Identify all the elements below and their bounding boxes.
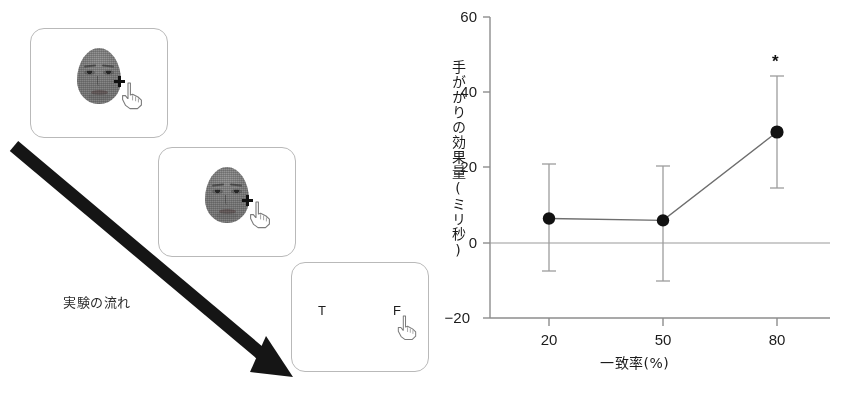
flow-label: 実験の流れ <box>63 292 193 311</box>
experiment-flow-panel: T F 実験の流れ <box>0 0 430 399</box>
stimulus-card-2 <box>158 147 296 257</box>
results-chart-panel: 60 40 20 0 −20 20 50 80 * <box>430 0 842 399</box>
stimulus-card-1 <box>30 28 168 138</box>
x-axis-title: 一致率(%) <box>600 352 669 372</box>
chart-axes <box>490 17 830 318</box>
data-point-50 <box>657 214 669 226</box>
error-bars <box>542 76 784 281</box>
x-tick-label-50: 50 <box>643 331 683 348</box>
data-point-80 <box>770 125 783 138</box>
x-tick-label-20: 20 <box>529 331 569 348</box>
y-tick-label-60: 60 <box>433 8 477 25</box>
response-card: T F <box>291 262 429 372</box>
response-option-true: T <box>318 303 326 318</box>
y-axis-ticks <box>483 17 490 318</box>
pointing-hand-icon <box>119 80 145 110</box>
y-axis-title: 手がかりの効果量(ミリ秒) <box>443 60 465 259</box>
y-tick-label-minus-20: −20 <box>426 309 470 326</box>
data-point-20 <box>543 212 555 224</box>
x-tick-label-80: 80 <box>757 331 797 348</box>
x-axis-ticks <box>549 318 777 326</box>
pointing-hand-icon <box>247 199 273 229</box>
pointing-hand-icon <box>395 313 419 341</box>
significance-asterisk: * <box>772 52 779 72</box>
